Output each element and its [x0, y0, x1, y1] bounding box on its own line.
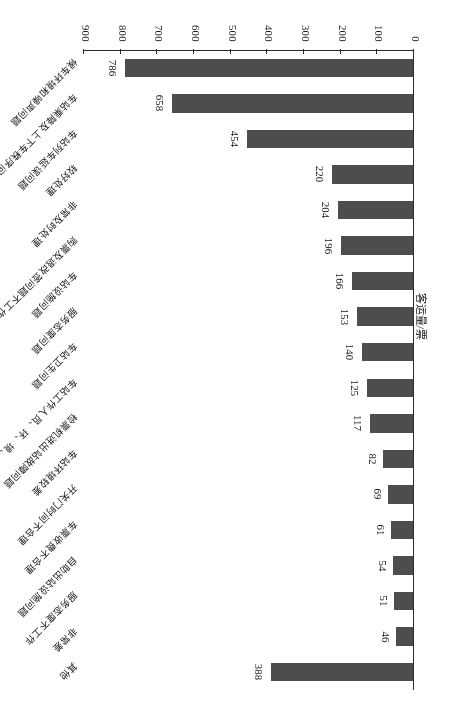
bar-value-label: 140: [343, 344, 355, 361]
bar-value-label: 454: [228, 131, 240, 148]
bar: [352, 272, 413, 290]
axis-tick-label: 800: [117, 25, 129, 42]
axis-tick: [303, 49, 304, 54]
bar-row: 220: [83, 165, 413, 183]
bar-row: 204: [83, 201, 413, 219]
bar-value-label: 51: [379, 596, 391, 607]
axis-tick: [120, 49, 121, 54]
bar-value-label: 125: [349, 380, 361, 397]
axis-tick-label: 100: [373, 25, 385, 42]
bar-row: 786: [83, 59, 413, 77]
rotated-scan-wrapper: 客运量/票 3884651546169821171251401531661962…: [0, 0, 456, 724]
category-label: 非常差: [50, 625, 81, 656]
bar-row: 388: [83, 663, 413, 681]
axis-tick-label: 300: [300, 25, 312, 42]
category-label: 车站乘降及上下车秩序问题、其他: [0, 91, 81, 207]
bar-row: 82: [83, 450, 413, 468]
axis-tick-label: 0: [410, 36, 422, 42]
bar-row: 61: [83, 521, 413, 539]
bar: [362, 343, 413, 361]
bar: [172, 94, 413, 112]
bar: [338, 201, 413, 219]
bar-value-label: 46: [381, 631, 393, 642]
bar-series: 3884651546169821171251401531661962042204…: [84, 51, 413, 690]
bar-value-label: 658: [153, 95, 165, 112]
chart-page: 客运量/票 3884651546169821171251401531661962…: [0, 0, 456, 724]
bar-value-label: 54: [378, 560, 390, 571]
bar: [396, 627, 413, 645]
axis-title: 客运量/票: [414, 293, 430, 340]
bar-row: 125: [83, 379, 413, 397]
axis-tick: [340, 49, 341, 54]
bar-row: 69: [83, 485, 413, 503]
category-label: 开关门时间不合理: [14, 483, 80, 549]
bar: [370, 414, 413, 432]
bar-row: 54: [83, 556, 413, 574]
bar-value-label: 82: [367, 453, 379, 464]
bar-row: 51: [83, 592, 413, 610]
bar: [357, 307, 413, 325]
axis-tick: [156, 49, 157, 54]
bar-row: 46: [83, 627, 413, 645]
bar: [125, 59, 413, 77]
axis-tick: [413, 49, 414, 54]
axis-tick: [230, 49, 231, 54]
bar-value-label: 153: [339, 308, 351, 325]
bar-row: 153: [83, 307, 413, 325]
bar: [394, 592, 413, 610]
bar-value-label: 204: [320, 202, 332, 219]
axis-tick: [83, 49, 84, 54]
axis-tick-label: 200: [337, 25, 349, 42]
bar-value-label: 69: [372, 489, 384, 500]
bar: [341, 236, 413, 254]
bar-row: 117: [83, 414, 413, 432]
bar: [388, 485, 413, 503]
bar: [332, 165, 413, 183]
category-axis-line: [413, 50, 414, 690]
bar-row: 658: [83, 94, 413, 112]
bar-value-label: 166: [334, 273, 346, 290]
bar-value-label: 786: [107, 60, 119, 77]
bar: [393, 556, 413, 574]
bar-value-label: 117: [352, 415, 364, 431]
axis-tick: [376, 49, 377, 54]
bar-row: 140: [83, 343, 413, 361]
axis-tick-label: 600: [190, 25, 202, 42]
axis-tick-label: 500: [227, 25, 239, 42]
bar-value-label: 61: [375, 525, 387, 536]
bar-row: 196: [83, 236, 413, 254]
bar: [247, 130, 413, 148]
bar-value-label: 220: [314, 166, 326, 183]
bar: [271, 663, 413, 681]
axis-tick-label: 400: [263, 25, 275, 42]
category-label: 其他: [57, 660, 81, 684]
plot-area: 3884651546169821171251401531661962042204…: [84, 50, 414, 690]
axis-tick: [266, 49, 267, 54]
axis-tick-label: 700: [153, 25, 165, 42]
bar: [367, 379, 413, 397]
axis-tick-label: 900: [80, 25, 92, 42]
bar: [383, 450, 413, 468]
bar-row: 454: [83, 130, 413, 148]
bar-chart: 客运量/票 3884651546169821171251401531661962…: [0, 0, 456, 724]
bar: [391, 521, 413, 539]
bar-row: 166: [83, 272, 413, 290]
bar-value-label: 196: [323, 237, 335, 254]
axis-tick: [193, 49, 194, 54]
bar-value-label: 388: [252, 664, 264, 681]
